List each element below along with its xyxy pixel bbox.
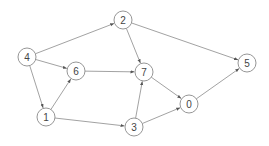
node-label: 0 [186, 99, 192, 110]
node-0: 0 [180, 95, 198, 113]
edge-4-to-6 [36, 59, 67, 68]
edge-7-to-0 [151, 77, 181, 98]
edge-2-to-7 [126, 28, 140, 63]
edge-1-to-3 [55, 118, 125, 126]
node-1: 1 [37, 108, 55, 126]
node-label: 4 [24, 52, 30, 63]
node-4: 4 [18, 48, 36, 66]
edge-4-to-1 [30, 66, 43, 108]
node-label: 7 [141, 67, 147, 78]
edge-0-to-5 [196, 68, 239, 98]
edge-3-to-0 [142, 108, 180, 124]
edge-2-to-5 [132, 23, 239, 60]
node-label: 2 [120, 15, 126, 26]
edge-6-to-7 [85, 71, 135, 72]
edges-layer [30, 23, 240, 126]
edge-1-to-6 [51, 79, 71, 110]
edge-4-to-2 [35, 23, 114, 53]
node-label: 6 [73, 66, 79, 77]
node-label: 5 [244, 58, 250, 69]
node-7: 7 [135, 63, 153, 81]
node-3: 3 [125, 118, 143, 136]
node-2: 2 [114, 11, 132, 29]
graph-canvas: 01234567 [0, 0, 269, 146]
nodes-layer: 01234567 [18, 11, 256, 136]
edge-3-to-7 [136, 81, 143, 118]
node-6: 6 [67, 62, 85, 80]
node-label: 1 [43, 112, 49, 123]
node-5: 5 [238, 54, 256, 72]
node-label: 3 [131, 122, 137, 133]
